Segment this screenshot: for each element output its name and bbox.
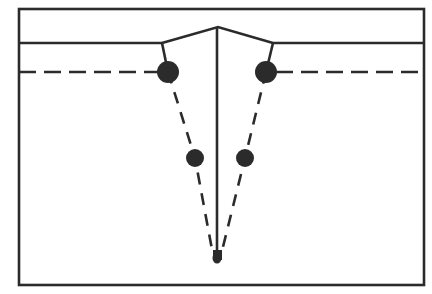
marker-lower-right[interactable] <box>236 149 254 167</box>
marker-upper-right[interactable] <box>255 61 277 83</box>
figure-container <box>0 0 432 294</box>
marker-upper-left[interactable] <box>157 61 179 83</box>
crack-propagation-diagram <box>0 0 432 294</box>
marker-lower-left[interactable] <box>186 149 204 167</box>
crack-tip-stem <box>213 250 222 260</box>
